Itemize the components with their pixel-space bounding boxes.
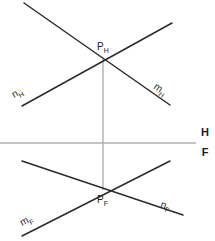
diagram-canvas: mH nH nF mF PH PF H F [0,0,215,241]
line-n-horizontal-projection [22,23,172,106]
label-point-p-horizontal: PH [97,41,109,54]
descriptive-geometry-drawing: mH nH nF mF PH PF H F [0,0,215,241]
label-m-horizontal: mH [151,81,169,99]
label-point-p-horizontal-subscript: H [104,47,109,54]
label-n-horizontal: nH [10,85,26,102]
label-frontal-plane: F [202,146,209,158]
line-m-frontal-projection [22,161,170,236]
label-point-p-frontal-subscript: F [104,200,108,207]
label-n-frontal: nF [159,198,172,213]
label-n-frontal-subscript: F [164,206,170,214]
label-point-p-frontal: PF [97,194,108,207]
label-horizontal-plane: H [201,126,209,138]
label-m-frontal: mF [18,212,35,229]
line-m-horizontal-projection [24,3,170,105]
